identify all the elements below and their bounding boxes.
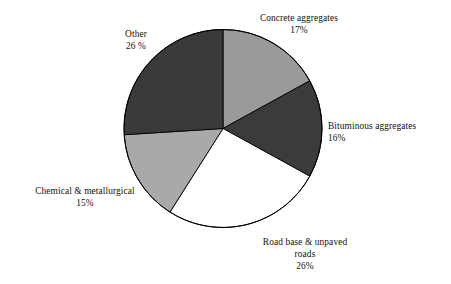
slice-label-other-value: 26 % bbox=[88, 40, 184, 52]
slice-label-chemical-metallurgical: Chemical & metallurgical 15% bbox=[10, 185, 160, 209]
slice-label-concrete-aggregates: Concrete aggregates 17% bbox=[214, 12, 384, 36]
slice-label-concrete-aggregates-value: 17% bbox=[214, 24, 384, 36]
slice-label-other: Other 26 % bbox=[88, 28, 184, 52]
slice-label-chemical-metallurgical-value: 15% bbox=[10, 197, 160, 209]
slice-label-bituminous-aggregates-name: Bituminous aggregates bbox=[328, 120, 451, 132]
pie-chart-figure: Concrete aggregates 17% Bituminous aggre… bbox=[0, 0, 451, 284]
slice-label-road-base-unpaved-roads-name-line2: roads bbox=[244, 248, 366, 260]
slice-label-chemical-metallurgical-name: Chemical & metallurgical bbox=[10, 185, 160, 197]
slice-label-road-base-unpaved-roads-name-line1: Road base & unpaved bbox=[244, 236, 366, 248]
slice-label-bituminous-aggregates-value: 16% bbox=[328, 132, 451, 144]
slice-label-road-base-unpaved-roads: Road base & unpaved roads 26% bbox=[244, 236, 366, 273]
slice-label-bituminous-aggregates: Bituminous aggregates 16% bbox=[328, 120, 451, 144]
slice-label-other-name: Other bbox=[88, 28, 184, 40]
slice-label-concrete-aggregates-name: Concrete aggregates bbox=[214, 12, 384, 24]
slice-label-road-base-unpaved-roads-value: 26% bbox=[244, 260, 366, 272]
